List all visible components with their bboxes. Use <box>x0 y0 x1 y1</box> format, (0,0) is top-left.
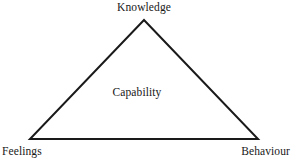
label-behaviour: Behaviour <box>241 145 290 158</box>
triangle-outline <box>30 20 258 139</box>
label-knowledge: Knowledge <box>0 1 291 14</box>
label-capability: Capability <box>0 86 284 99</box>
capability-triangle-figure: Knowledge Capability Feelings Behaviour <box>0 0 294 167</box>
triangle-shape <box>0 0 294 167</box>
label-feelings: Feelings <box>2 145 42 158</box>
